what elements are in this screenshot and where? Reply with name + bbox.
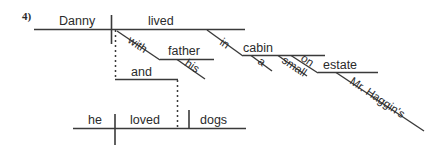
word-father: father xyxy=(168,44,200,58)
exercise-number: 4) xyxy=(22,10,32,23)
diagram-svg: 4) Danny lived with father his in cabin … xyxy=(0,0,441,147)
word-loved: loved xyxy=(130,113,160,127)
word-danny: Danny xyxy=(59,14,96,28)
word-with: with xyxy=(125,33,149,55)
word-and: and xyxy=(131,65,152,79)
word-estate: estate xyxy=(323,58,357,72)
word-mr-haggins: Mr. Haggin's xyxy=(348,75,408,121)
word-dogs: dogs xyxy=(200,113,227,127)
word-cabin: cabin xyxy=(243,41,273,55)
sentence-diagram-canvas: 4) Danny lived with father his in cabin … xyxy=(0,0,441,147)
word-in: in xyxy=(218,36,232,51)
word-lived: lived xyxy=(148,14,174,28)
word-he: he xyxy=(88,113,102,127)
